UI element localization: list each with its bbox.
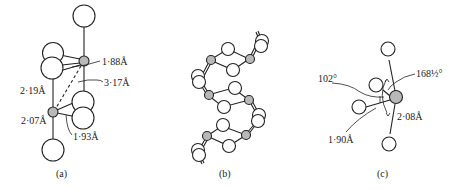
atom-open bbox=[227, 64, 240, 77]
caption-b: (b) bbox=[219, 168, 231, 180]
bond bbox=[383, 90, 390, 96]
bond bbox=[57, 113, 72, 116]
label-102-deg: 102° bbox=[318, 73, 337, 84]
atom-open bbox=[193, 149, 206, 162]
atom-metal bbox=[207, 56, 216, 65]
atom-open bbox=[252, 115, 265, 128]
label-2-19: 2·19Å bbox=[20, 85, 46, 96]
atom-open bbox=[223, 140, 236, 153]
caption-a: (a) bbox=[56, 168, 67, 180]
leader-1-93 bbox=[66, 115, 72, 135]
atom-metal bbox=[242, 131, 251, 140]
arrow-tick bbox=[385, 79, 389, 82]
atom-open bbox=[218, 101, 231, 114]
caption-c: (c) bbox=[377, 168, 388, 180]
bond bbox=[390, 104, 395, 134]
figure-canvas: 1·88Å 3·17Å 2·19Å 2·07Å 1·93Å (a) bbox=[0, 0, 460, 191]
atom-open bbox=[72, 107, 94, 129]
panel-b: (b) bbox=[192, 31, 269, 180]
atom-metal bbox=[203, 132, 212, 141]
atom-open bbox=[381, 42, 395, 56]
label-1-90: 1·90Å bbox=[328, 134, 354, 145]
label-3-17: 3·17Å bbox=[104, 77, 130, 88]
atom-metal bbox=[245, 96, 254, 105]
atom-open bbox=[217, 119, 230, 132]
label-2-07: 2·07Å bbox=[21, 115, 47, 126]
bond bbox=[389, 60, 395, 91]
atom-open bbox=[369, 78, 383, 92]
atom-open bbox=[41, 57, 63, 79]
bond bbox=[63, 65, 80, 70]
label-168-deg: 168½° bbox=[416, 68, 443, 79]
label-1-88: 1·88Å bbox=[102, 56, 128, 67]
panel-a: 1·88Å 3·17Å 2·19Å 2·07Å 1·93Å (a) bbox=[20, 5, 130, 180]
bond bbox=[62, 63, 80, 65]
atom-open bbox=[193, 76, 206, 89]
atom-open bbox=[382, 137, 396, 151]
bond bbox=[366, 100, 390, 107]
atom-metal bbox=[246, 55, 255, 64]
bond bbox=[57, 103, 73, 110]
atom-open bbox=[73, 5, 95, 27]
panel-c: 102° 168½° 2·08Å 1·90Å (c) bbox=[318, 42, 443, 180]
atom-open bbox=[42, 139, 64, 161]
label-2-08: 2·08Å bbox=[397, 111, 423, 122]
atom-open bbox=[229, 82, 242, 95]
leader-3-17 bbox=[78, 80, 103, 82]
atom-metal bbox=[48, 107, 58, 117]
atom-open bbox=[352, 100, 366, 114]
atom-open bbox=[222, 43, 235, 56]
atom-metal bbox=[205, 91, 214, 100]
atom-open bbox=[255, 40, 268, 53]
label-1-93: 1·93Å bbox=[73, 131, 99, 142]
arrow-tick bbox=[386, 113, 390, 116]
atom-metal bbox=[390, 91, 403, 104]
